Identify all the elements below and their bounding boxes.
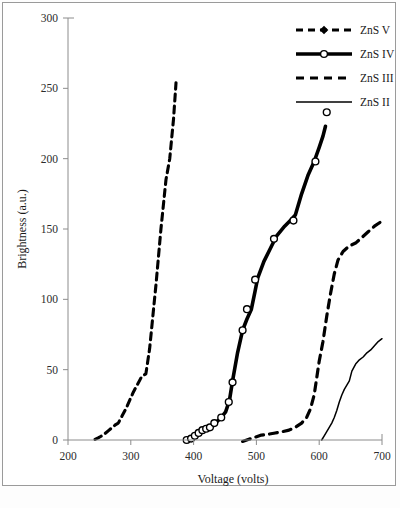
y-tick-label: 200 (41, 153, 59, 165)
legend-swatch-marker (321, 51, 328, 58)
legend-label: ZnS III (360, 72, 394, 84)
x-tick-label: 300 (122, 450, 140, 462)
data-point-marker (218, 414, 225, 421)
y-tick-label: 50 (47, 364, 59, 376)
data-point-marker (239, 327, 246, 334)
legend-label: ZnS IV (360, 48, 395, 60)
y-tick-label: 100 (41, 293, 59, 305)
legend-label: ZnS II (360, 96, 390, 108)
legend-entry-zns-ii[interactable]: ZnS II (296, 96, 390, 108)
plot-area (95, 0, 382, 443)
x-axis-title: Voltage (volts) (198, 472, 269, 486)
legend-label: ZnS V (360, 24, 391, 36)
figure-container: 050100150200250300200300400500600700Volt… (0, 0, 400, 508)
series-line (243, 222, 381, 441)
x-tick-label: 200 (59, 450, 77, 462)
x-tick-label: 700 (373, 450, 391, 462)
axis-lines (68, 18, 382, 440)
data-point-marker (229, 379, 236, 386)
y-tick-label: 150 (41, 223, 59, 235)
data-point-marker (244, 306, 251, 313)
legend-swatch-marker (320, 26, 329, 35)
axes-layer (63, 18, 382, 445)
series-zns-iii (243, 222, 381, 441)
data-point-marker (290, 217, 297, 224)
x-tick-label: 600 (311, 450, 329, 462)
series-zns-v (95, 0, 176, 439)
legend-entry-zns-iii[interactable]: ZnS III (296, 72, 394, 84)
data-point-marker (271, 235, 278, 242)
y-axis-title: Brightness (a.u.) (15, 189, 29, 269)
data-point-marker (323, 109, 330, 116)
series-zns-ii (322, 339, 382, 440)
legend-entry-zns-iv[interactable]: ZnS IV (296, 48, 395, 60)
series-line (95, 83, 176, 440)
x-tick-label: 500 (248, 450, 266, 462)
legend-entry-zns-v[interactable]: ZnS V (296, 24, 391, 36)
y-tick-label: 0 (52, 434, 58, 446)
y-tick-label: 250 (41, 82, 59, 94)
data-point-marker (312, 158, 319, 165)
series-zns-iv (183, 109, 330, 444)
brightness-voltage-chart: 050100150200250300200300400500600700Volt… (0, 0, 400, 508)
x-tick-label: 400 (185, 450, 203, 462)
chart-legend: ZnS VZnS IVZnS IIIZnS II (296, 24, 395, 108)
y-tick-label: 300 (41, 12, 59, 24)
data-point-marker (211, 420, 218, 427)
data-point-marker (252, 276, 259, 283)
series-line (322, 339, 382, 440)
data-point-marker (225, 399, 232, 406)
